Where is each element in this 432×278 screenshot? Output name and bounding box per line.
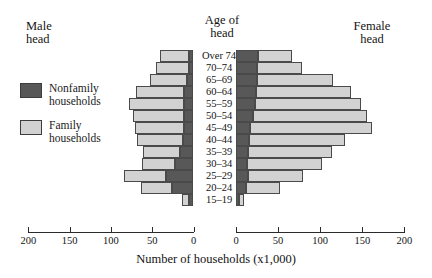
x-tick (111, 227, 112, 232)
x-tick (152, 227, 153, 232)
bar-segment-family (257, 74, 333, 86)
bar-segment-family (258, 50, 292, 62)
x-tick-label: 0 (174, 235, 214, 247)
x-tick-label: 100 (91, 235, 131, 247)
x-tick-label: 50 (132, 235, 172, 247)
bar-segment-family (256, 86, 351, 98)
age-label-3: 60–64 (192, 86, 246, 98)
age-label-12: 15–19 (192, 194, 246, 206)
x-tick-label: 150 (50, 235, 90, 247)
x-tick-label: 100 (300, 235, 340, 247)
age-label-1: 70–74 (192, 62, 246, 74)
population-pyramid-plot: Over 7470–7465–6960–6455–5950–5445–4940–… (0, 0, 432, 278)
age-label-4: 55–59 (192, 98, 246, 110)
bar-segment-family (257, 62, 302, 74)
age-label-2: 65–69 (192, 74, 246, 86)
age-label-7: 40–44 (192, 134, 246, 146)
x-tick (320, 227, 321, 232)
x-tick (28, 227, 29, 232)
x-tick (194, 227, 195, 232)
x-axis-left (28, 232, 194, 233)
bar-segment-family (249, 134, 345, 146)
x-axis-right (236, 232, 405, 233)
x-tick (70, 227, 71, 232)
x-tick-label: 50 (258, 235, 298, 247)
bar-segment-family (248, 170, 304, 182)
bar-segment-family (246, 182, 280, 194)
bar-segment-family (253, 110, 368, 122)
bar-segment-family (250, 122, 372, 134)
x-tick (278, 227, 279, 232)
x-axis-title: Number of households (x1,000) (0, 252, 432, 267)
bar-segment-family (255, 98, 362, 110)
age-label-5: 50–54 (192, 110, 246, 122)
bar-segment-family (248, 146, 332, 158)
age-label-0: Over 74 (192, 50, 246, 62)
x-tick (362, 227, 363, 232)
age-label-8: 35–39 (192, 146, 246, 158)
bar-segment-family (247, 158, 322, 170)
x-tick-label: 200 (384, 235, 424, 247)
age-label-11: 20–24 (192, 182, 246, 194)
x-tick-label: 150 (342, 235, 382, 247)
x-tick-label: 0 (216, 235, 256, 247)
x-tick (236, 227, 237, 232)
age-label-10: 25–29 (192, 170, 246, 182)
age-label-6: 45–49 (192, 122, 246, 134)
x-tick-label: 200 (8, 235, 48, 247)
x-tick (404, 227, 405, 232)
age-label-9: 30–34 (192, 158, 246, 170)
